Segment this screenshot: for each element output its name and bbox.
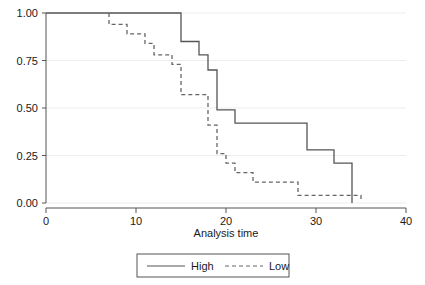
- legend-label-high: High: [191, 260, 214, 272]
- y-tick-label: 0.75: [17, 55, 38, 67]
- series-line-low: [109, 13, 361, 199]
- y-tick-label: 0.25: [17, 150, 38, 162]
- legend: High Low: [137, 254, 289, 277]
- y-tick-label: 0.50: [17, 102, 38, 114]
- x-tick-label: 20: [220, 215, 232, 227]
- x-tick-marks: [46, 208, 406, 213]
- x-tick-label: 0: [43, 215, 49, 227]
- survival-chart: 0.000.250.500.751.00 010203040 Analysis …: [0, 0, 425, 285]
- y-tick-marks: [42, 13, 46, 203]
- x-tick-label: 10: [130, 215, 142, 227]
- legend-label-low: Low: [269, 260, 289, 272]
- x-tick-label: 30: [310, 215, 322, 227]
- y-tick-label: 1.00: [17, 7, 38, 19]
- x-tick-labels: 010203040: [43, 215, 412, 227]
- y-tick-label: 0.00: [17, 197, 38, 209]
- chart-canvas: 0.000.250.500.751.00 010203040 Analysis …: [0, 0, 425, 285]
- y-tick-labels: 0.000.250.500.751.00: [17, 7, 38, 209]
- x-tick-label: 40: [400, 215, 412, 227]
- x-axis-title: Analysis time: [194, 227, 259, 239]
